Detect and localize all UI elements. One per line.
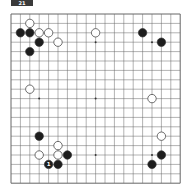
black-stone xyxy=(26,47,34,55)
white-stone xyxy=(35,151,43,159)
white-stone xyxy=(26,19,34,27)
star-point xyxy=(95,98,97,100)
black-stone xyxy=(35,132,43,140)
move-number: 1 xyxy=(47,161,51,167)
black-stone xyxy=(138,29,146,37)
white-stone xyxy=(91,29,99,37)
white-stone xyxy=(157,132,165,140)
black-stone xyxy=(157,151,165,159)
white-stone xyxy=(44,29,52,37)
black-stone xyxy=(35,38,43,46)
white-stone xyxy=(54,151,62,159)
black-stone xyxy=(157,38,165,46)
white-stone xyxy=(54,141,62,149)
white-stone xyxy=(26,85,34,93)
star-point xyxy=(95,41,97,43)
white-stone xyxy=(148,94,156,102)
star-point xyxy=(95,154,97,156)
star-point xyxy=(151,41,153,43)
black-stone xyxy=(63,151,71,159)
black-stone xyxy=(26,29,34,37)
star-point xyxy=(38,98,40,100)
black-stone xyxy=(16,29,24,37)
go-board: 1 xyxy=(0,0,187,195)
white-stone xyxy=(35,29,43,37)
white-stone xyxy=(54,38,62,46)
star-point xyxy=(151,154,153,156)
black-stone xyxy=(148,160,156,168)
black-stone xyxy=(54,160,62,168)
